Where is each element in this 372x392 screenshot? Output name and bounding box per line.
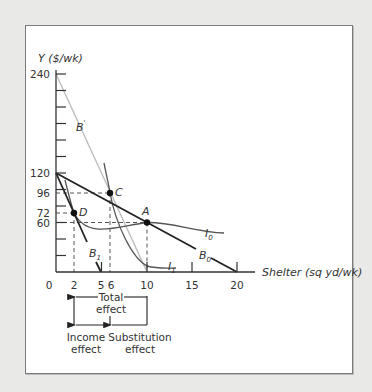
point-c-label: C	[115, 186, 123, 199]
point-c	[107, 190, 113, 196]
income-effect-label-1: Income	[67, 331, 106, 343]
substitution-effect-label-1: Substitution	[108, 331, 171, 343]
y-axis-ticks	[56, 74, 66, 256]
total-effect-label-2: effect	[96, 303, 126, 315]
total-effect-label-1: Total	[98, 291, 124, 303]
y-tick-240: 240	[30, 68, 50, 80]
point-a	[144, 219, 150, 225]
indifference-i0-label: I0	[205, 227, 213, 242]
y-tick-96: 96	[37, 187, 51, 199]
x-tick-2: 2	[71, 279, 78, 291]
substitution-effect-label-2: effect	[125, 343, 155, 355]
budget-b0-label: B0	[199, 249, 212, 264]
x-tick-6: 6	[108, 279, 115, 291]
y-tick-120: 120	[30, 167, 50, 179]
indifference-curve-i1	[104, 163, 176, 268]
y-tick-60: 60	[37, 217, 50, 229]
x-tick-20: 20	[230, 279, 243, 291]
budget-b1-label: B1	[89, 247, 101, 262]
income-substitution-diagram: 240 120 96 72 60 0 2 5 6 10 15 20 Y ($/w…	[0, 0, 372, 392]
x-tick-15: 15	[185, 279, 198, 291]
axes	[56, 70, 255, 272]
income-effect-label-2: effect	[71, 343, 101, 355]
x-tick-10: 10	[140, 279, 153, 291]
point-d	[71, 210, 77, 216]
indifference-i1-label: I1	[168, 260, 176, 275]
y-axis-title: Y ($/wk)	[38, 52, 83, 65]
budget-b-prime-label: B'	[76, 119, 86, 134]
point-a-label: A	[141, 205, 150, 218]
point-d-label: D	[79, 206, 87, 219]
budget-line-b-prime	[56, 74, 147, 272]
x-axis-title: Shelter (sq yd/wk)	[262, 266, 362, 279]
x-tick-0: 0	[46, 279, 53, 291]
x-tick-5: 5	[98, 279, 105, 291]
